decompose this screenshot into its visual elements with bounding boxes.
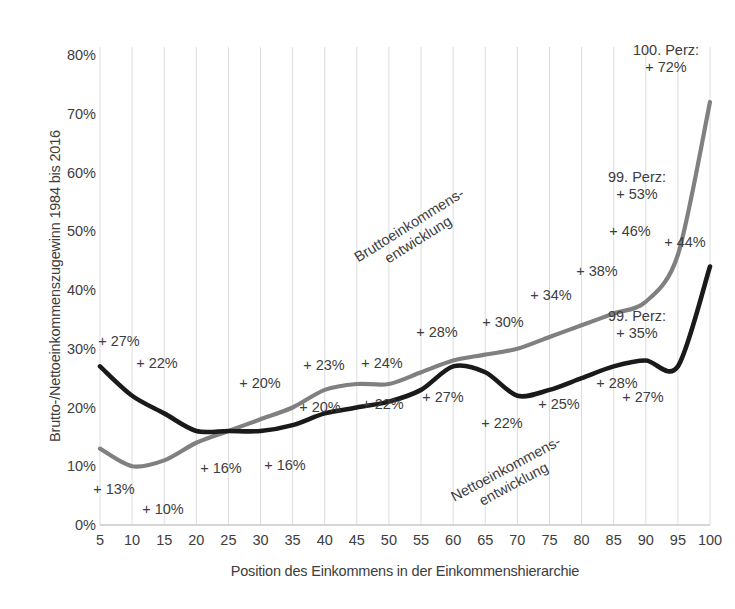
data-label-9: + 24% [361, 355, 403, 372]
y-tick-60%: 60% [50, 165, 96, 181]
data-label-4: + 16% [200, 460, 242, 477]
vertical-gridlines [100, 47, 710, 525]
x-tick-40: 40 [317, 532, 333, 548]
y-tick-10%: 10% [50, 458, 96, 474]
x-tick-80: 80 [574, 532, 590, 548]
data-label-14: + 22% [481, 415, 523, 432]
y-tick-0%: 0% [50, 517, 96, 533]
x-tick-15: 15 [156, 532, 172, 548]
data-label-22: 99. Perz:+ 53% [608, 169, 666, 202]
x-tick-70: 70 [509, 532, 525, 548]
data-label-6: + 20% [239, 375, 281, 392]
data-label-8: + 20% [299, 399, 341, 416]
plot-area [0, 0, 735, 609]
x-tick-100: 100 [698, 532, 722, 548]
x-tick-5: 5 [96, 532, 104, 548]
y-tick-30%: 30% [50, 341, 96, 357]
series-line-nettoeinkommensentwicklung [100, 267, 710, 433]
data-label-0: + 27% [98, 333, 140, 350]
data-label-5: + 16% [264, 457, 306, 474]
x-tick-85: 85 [606, 532, 622, 548]
x-tick-45: 45 [349, 532, 365, 548]
x-tick-20: 20 [188, 532, 204, 548]
income-growth-line-chart: Brutto-/Nettoeinkommenszugewinn 1984 bis… [0, 0, 735, 609]
x-tick-60: 60 [445, 532, 461, 548]
data-label-16: + 25% [538, 396, 580, 413]
data-label-23: 99. Perz:+ 35% [608, 308, 666, 341]
x-tick-50: 50 [381, 532, 397, 548]
data-label-12: + 27% [422, 389, 464, 406]
data-label-1: + 22% [136, 355, 178, 372]
x-tick-55: 55 [413, 532, 429, 548]
data-label-20: + 46% [609, 223, 651, 240]
data-label-24: 100. Perz:+ 72% [633, 42, 699, 75]
x-tick-90: 90 [638, 532, 654, 548]
y-tick-70%: 70% [50, 106, 96, 122]
x-tick-95: 95 [670, 532, 686, 548]
data-label-10: + 22% [362, 396, 404, 413]
y-tick-40%: 40% [50, 282, 96, 298]
data-label-2: + 13% [93, 481, 135, 498]
x-tick-10: 10 [124, 532, 140, 548]
data-label-19: + 27% [622, 389, 664, 406]
data-label-3: + 10% [142, 501, 184, 518]
y-tick-20%: 20% [50, 400, 96, 416]
data-label-15: + 34% [530, 287, 572, 304]
x-tick-65: 65 [477, 532, 493, 548]
data-label-21: + 44% [664, 234, 706, 251]
x-tick-35: 35 [285, 532, 301, 548]
data-label-11: + 28% [416, 324, 458, 341]
x-tick-75: 75 [541, 532, 557, 548]
data-label-17: + 38% [576, 263, 618, 280]
x-tick-25: 25 [220, 532, 236, 548]
x-tick-30: 30 [252, 532, 268, 548]
x-axis-title: Position des Einkommens in der Einkommen… [100, 563, 710, 579]
data-label-13: + 30% [482, 314, 524, 331]
series-line-bruttoeinkommensentwicklung [100, 102, 710, 467]
data-label-7: + 23% [303, 357, 345, 374]
y-axis-tick-labels: 0%10%20%30%40%50%60%70%80% [50, 0, 96, 609]
y-tick-50%: 50% [50, 223, 96, 239]
y-tick-80%: 80% [50, 47, 96, 63]
